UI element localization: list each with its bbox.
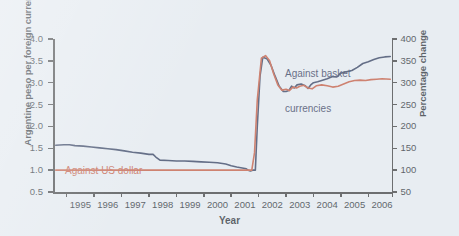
y-axis-right-tick (392, 104, 398, 106)
x-axis-tick (176, 192, 178, 197)
x-axis-tick (392, 192, 394, 197)
x-axis-tick-label: 2006 (371, 200, 392, 210)
x-axis-tick (340, 192, 342, 197)
y-axis-left-tick-label: 3.0 (15, 78, 43, 88)
y-axis-right-title: Percentage change (417, 14, 428, 134)
x-axis-spine (53, 192, 393, 194)
y-axis-left-tick-label: 1.5 (15, 143, 43, 153)
x-axis-tick (121, 192, 123, 197)
x-axis-tick-label: 1998 (152, 200, 173, 210)
y-axis-left-tick (48, 169, 53, 171)
y-axis-right-tick-label: 300 (401, 78, 417, 88)
y-axis-left-spine (53, 39, 55, 192)
y-axis-left-tick-label: 4.0 (15, 34, 43, 44)
annotation-basket-line-2: currencies (285, 103, 351, 115)
y-axis-right-tick-label: 150 (401, 143, 417, 153)
y-axis-right-tick-label: 200 (401, 121, 417, 131)
y-axis-right-tick-label: 50 (401, 187, 412, 197)
y-axis-left-tick (48, 126, 53, 128)
y-axis-left-tick (48, 104, 53, 106)
annotation-against-us-dollar: Against US dollar (65, 165, 142, 177)
y-axis-left-tick-label: 2.5 (15, 100, 43, 110)
x-axis-tick (203, 192, 205, 197)
y-axis-right-tick-label: 100 (401, 165, 417, 175)
y-axis-right-tick (392, 126, 398, 128)
x-axis-tick-label: 1995 (70, 200, 91, 210)
x-axis-tick-label: 2005 (344, 200, 365, 210)
x-axis-tick (285, 192, 287, 197)
y-axis-right-tick (392, 148, 398, 150)
x-axis-tick-label: 2001 (234, 200, 255, 210)
plot-area: 0.51.01.52.02.53.03.54.0 501001502002503… (53, 39, 393, 192)
x-axis-title: Year (0, 215, 459, 226)
y-axis-left-tick (48, 38, 53, 40)
y-axis-left-tick-label: 0.5 (15, 187, 43, 197)
y-axis-left-tick-label: 2.0 (15, 121, 43, 131)
y-axis-right-tick-label: 400 (401, 34, 417, 44)
y-axis-right-tick-label: 350 (401, 56, 417, 66)
y-axis-right-tick (392, 169, 398, 171)
x-axis-tick-label: 2002 (262, 200, 283, 210)
x-axis-tick (313, 192, 315, 197)
annotation-against-basket-currencies: Against basket currencies (285, 45, 351, 137)
annotation-basket-line-1: Against basket (285, 68, 351, 80)
x-axis-tick-label: 1999 (180, 200, 201, 210)
x-axis-tick (148, 192, 150, 197)
x-axis-tick-label: 1996 (97, 200, 118, 210)
chart-figure: Argentine peso per foreign currency unit… (0, 0, 459, 236)
x-axis-tick-label: 2004 (317, 200, 338, 210)
x-axis-tick (230, 192, 232, 197)
y-axis-right-tick (392, 82, 398, 84)
y-axis-left-tick-label: 1.0 (15, 165, 43, 175)
x-axis-tick-label: 2003 (289, 200, 310, 210)
x-axis-tick (258, 192, 260, 197)
y-axis-left-tick (48, 148, 53, 150)
x-axis-tick (66, 192, 68, 197)
x-axis-tick (93, 192, 95, 197)
y-axis-left-tick (48, 82, 53, 84)
x-axis-tick (368, 192, 370, 197)
y-axis-right-tick (392, 60, 398, 62)
y-axis-right-tick-label: 250 (401, 100, 417, 110)
x-axis-tick-label: 1997 (125, 200, 146, 210)
y-axis-left-tick (48, 191, 53, 193)
y-axis-left-tick (48, 60, 53, 62)
x-axis-tick-label: 2000 (207, 200, 228, 210)
y-axis-right-tick (392, 38, 398, 40)
y-axis-left-tick-label: 3.5 (15, 56, 43, 66)
